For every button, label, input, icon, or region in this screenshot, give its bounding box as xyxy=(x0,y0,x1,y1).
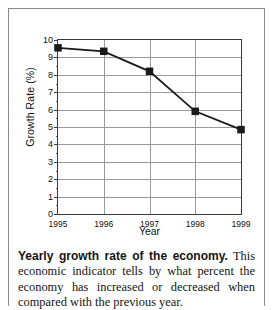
y-tick-label: 3 xyxy=(48,157,53,167)
y-axis-title: Growth Rate (%) xyxy=(24,52,36,162)
y-tick-label: 8 xyxy=(48,70,53,80)
y-tick-label: 2 xyxy=(48,174,53,184)
line-chart: Growth Rate (%) 012345678910 19951996199… xyxy=(9,9,264,241)
data-point-marker xyxy=(237,126,245,134)
x-axis-title: Year xyxy=(57,225,242,237)
series-line xyxy=(58,48,241,130)
data-point-marker xyxy=(54,44,62,52)
plot-area: 012345678910 19951996199719981999 xyxy=(57,39,242,215)
y-tick-label: 5 xyxy=(48,122,53,132)
y-tick-mark xyxy=(54,214,58,215)
data-series xyxy=(58,40,241,214)
caption-lead: Yearly growth rate of the economy. xyxy=(18,249,228,263)
y-tick-label: 10 xyxy=(43,35,53,45)
data-point-marker xyxy=(146,68,154,76)
data-point-marker xyxy=(192,108,200,116)
y-tick-label: 7 xyxy=(48,87,53,97)
y-tick-label: 4 xyxy=(48,139,53,149)
figure-caption: Yearly growth rate of the economy. This … xyxy=(18,249,255,310)
y-tick-label: 6 xyxy=(48,105,53,115)
y-tick-label: 1 xyxy=(48,192,53,202)
figure-frame: Growth Rate (%) 012345678910 19951996199… xyxy=(8,8,265,306)
data-point-marker xyxy=(100,48,108,55)
y-tick-label: 9 xyxy=(48,52,53,62)
y-tick-label: 0 xyxy=(48,209,53,219)
